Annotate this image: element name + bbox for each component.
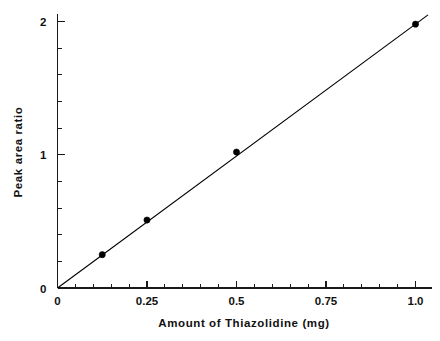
x-tick-label: 0.75 (315, 295, 338, 307)
x-axis-title: Amount of Thiazolidine (mg) (158, 317, 329, 329)
chart-figure: 012 00.250.50.751.0 Amount of Thiazolidi… (0, 0, 440, 341)
data-point (233, 149, 239, 155)
y-tick-label: 0 (40, 283, 46, 295)
regression-line (58, 15, 429, 288)
y-axis-major-ticks (58, 22, 65, 289)
x-tick-label: 0.5 (229, 295, 246, 307)
data-point (99, 252, 105, 258)
x-axis-tick-labels: 00.250.50.751.0 (54, 295, 423, 307)
regression-line-group (58, 15, 429, 288)
y-axis-title: Peak area ratio (12, 107, 24, 198)
calibration-plot: 012 00.250.50.751.0 Amount of Thiazolidi… (0, 0, 440, 341)
y-tick-label: 1 (40, 149, 47, 161)
data-point (412, 21, 418, 27)
y-tick-label: 2 (40, 16, 46, 28)
x-tick-label: 0.25 (136, 295, 159, 307)
x-tick-label: 0 (54, 295, 60, 307)
y-axis-tick-labels: 012 (40, 16, 47, 295)
x-tick-label: 1.0 (408, 295, 424, 307)
data-point (144, 217, 150, 223)
